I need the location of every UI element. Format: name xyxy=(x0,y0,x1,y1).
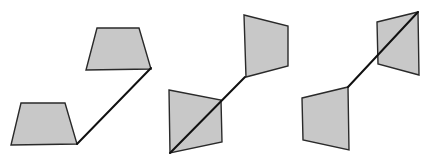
figure-1-connector-line xyxy=(77,68,151,144)
diagram-canvas xyxy=(0,0,429,159)
figure-3-lower-quad xyxy=(302,87,349,150)
figure-1 xyxy=(11,28,151,145)
figure-2 xyxy=(169,15,288,153)
figure-3 xyxy=(302,12,419,150)
figure-3-upper-quad xyxy=(377,12,419,75)
figure-2-upper-quad xyxy=(244,15,288,77)
figure-2-lower-quad xyxy=(169,90,222,153)
figure-1-upper-trapezoid xyxy=(86,28,151,70)
diagram-svg xyxy=(0,0,429,159)
figure-1-lower-trapezoid xyxy=(11,103,77,145)
